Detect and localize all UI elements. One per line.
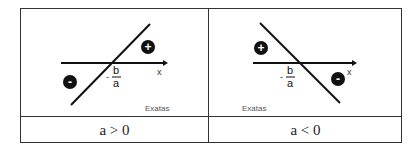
root-numerator: b (113, 64, 119, 76)
x-axis-label: x (347, 67, 352, 77)
root-numerator: b (287, 64, 293, 76)
caption-a-negative: a < 0 (209, 117, 402, 143)
x-axis-arrow-icon (352, 60, 357, 66)
svg-text:+: + (257, 41, 264, 55)
x-axis-label: x (157, 67, 162, 77)
line-positive-slope (71, 24, 150, 105)
sign-study-table: x - b a + - Exatas a > 0 x - b a + - (20, 8, 402, 143)
caption-a-positive: a > 0 (21, 117, 208, 143)
graph-decreasing: x - b a + - Exatas (209, 9, 402, 116)
svg-text:-: - (336, 72, 340, 86)
root-sign: - (106, 72, 109, 82)
svg-text:-: - (68, 75, 72, 89)
svg-text:+: + (144, 40, 151, 54)
root-denominator: a (287, 77, 294, 89)
x-axis-arrow-icon (163, 60, 168, 66)
watermark: Exatas (242, 104, 266, 113)
root-sign: - (280, 72, 283, 82)
watermark: Exatas (145, 104, 169, 113)
root-denominator: a (113, 77, 120, 89)
graph-increasing: x - b a + - Exatas (21, 9, 208, 116)
